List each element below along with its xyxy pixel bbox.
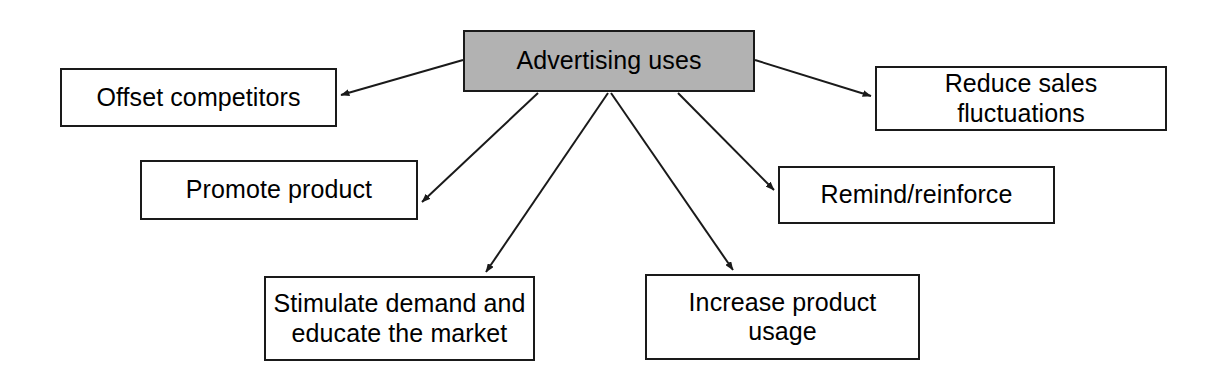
edge-remind-reinforce xyxy=(678,93,774,190)
node-reduce-sales-fluctuations-label: Reduce sales fluctuations xyxy=(877,69,1165,128)
node-promote-product-label: Promote product xyxy=(180,175,378,205)
edge-offset-competitors xyxy=(341,60,463,95)
edge-reduce-sales-fluctuations xyxy=(755,60,871,96)
node-root-label: Advertising uses xyxy=(510,46,707,76)
node-reduce-sales-fluctuations[interactable]: Reduce sales fluctuations xyxy=(875,66,1167,131)
node-promote-product[interactable]: Promote product xyxy=(140,160,418,220)
edge-stimulate-demand xyxy=(486,93,608,272)
node-remind-reinforce[interactable]: Remind/reinforce xyxy=(778,166,1055,224)
node-increase-product-usage[interactable]: Increase product usage xyxy=(645,274,920,360)
node-offset-competitors-label: Offset competitors xyxy=(90,83,306,113)
node-increase-product-usage-label: Increase product usage xyxy=(683,288,883,347)
node-root[interactable]: Advertising uses xyxy=(463,30,755,92)
edge-promote-product xyxy=(422,93,538,202)
node-stimulate-demand[interactable]: Stimulate demand and educate the market xyxy=(264,276,535,361)
node-remind-reinforce-label: Remind/reinforce xyxy=(815,180,1019,210)
edge-increase-product-usage xyxy=(611,93,733,270)
diagram-canvas: Advertising uses Offset competitors Redu… xyxy=(0,0,1226,385)
node-offset-competitors[interactable]: Offset competitors xyxy=(60,68,337,127)
node-stimulate-demand-label: Stimulate demand and educate the market xyxy=(267,289,531,348)
